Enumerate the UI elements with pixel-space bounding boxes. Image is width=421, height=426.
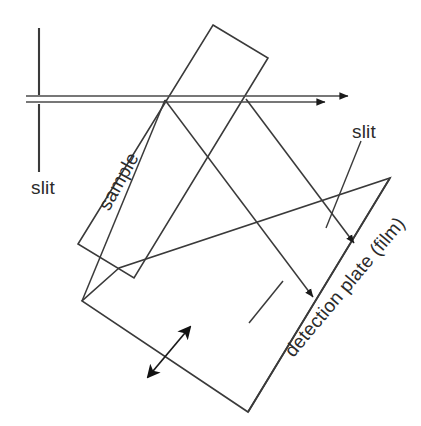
diagram-canvas (0, 0, 421, 426)
label-slit-left: slit (31, 178, 55, 197)
diffracted-ray-a (165, 100, 313, 297)
detection-plate-line (248, 178, 390, 412)
diffracted-rays (82, 99, 354, 323)
incident-beam (26, 96, 348, 102)
label-slit-right: slit (352, 122, 376, 141)
detector-normal-tick (249, 281, 283, 323)
diffracted-ray-b (246, 99, 354, 243)
diffraction-diagram: slit slit sample detection plate (film) (0, 0, 421, 426)
slit-right-leader-line (326, 141, 361, 228)
